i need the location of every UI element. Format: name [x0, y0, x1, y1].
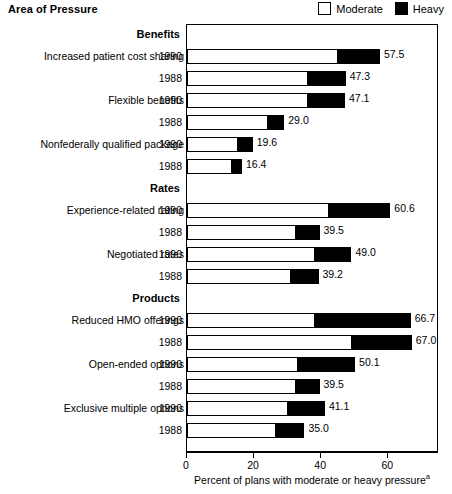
chart-legend: ModerateHeavy: [318, 2, 444, 15]
x-axis-tick-label: 40: [314, 459, 326, 471]
stacked-bar: [187, 115, 284, 130]
x-axis-tick: [387, 452, 388, 458]
stacked-bar: [187, 71, 346, 86]
section-title: Rates: [0, 182, 180, 195]
section-header-row: Products: [0, 288, 452, 310]
x-axis-label: Percent of plans with moderate or heavy …: [186, 472, 438, 486]
year-label: 1990: [152, 314, 182, 327]
legend-swatch-moderate-icon: [318, 2, 331, 15]
bar-segment-heavy: [314, 314, 409, 327]
bar-segment-heavy: [314, 248, 350, 261]
x-axis-label-text: Percent of plans with moderate or heavy …: [194, 474, 426, 486]
table-row: Exclusive multiple options199041.1: [0, 398, 452, 420]
bar-segment-heavy: [295, 226, 318, 239]
bar-segment-heavy: [275, 424, 303, 437]
bar-value-label: 35.0: [308, 422, 328, 434]
year-label: 1990: [152, 358, 182, 371]
bar-segment-moderate: [188, 94, 307, 107]
stacked-bar: [187, 93, 345, 108]
bar-segment-moderate: [188, 50, 337, 63]
x-axis-tick-label: 60: [381, 459, 393, 471]
legend-label: Heavy: [413, 3, 444, 15]
bar-segment-heavy: [328, 204, 390, 217]
year-label: 1990: [152, 138, 182, 151]
bar-value-label: 49.0: [355, 246, 375, 258]
bar-segment-moderate: [188, 160, 231, 173]
x-axis-label-footnote: a: [426, 472, 430, 481]
year-label: 1990: [152, 50, 182, 63]
stacked-bar: [187, 423, 304, 438]
bar-segment-heavy: [231, 160, 241, 173]
legend-item-moderate: Moderate: [318, 2, 382, 15]
section-title: Benefits: [0, 28, 180, 41]
year-label: 1988: [152, 336, 182, 349]
bar-segment-heavy: [297, 358, 354, 371]
table-row: 198839.5: [0, 376, 452, 398]
year-label: 1988: [152, 72, 182, 85]
x-axis-tick-label: 0: [183, 459, 189, 471]
chart-container: Area of Pressure ModerateHeavy BenefitsI…: [0, 0, 452, 494]
bar-segment-moderate: [188, 270, 290, 283]
bar-segment-heavy: [351, 336, 411, 349]
bar-value-label: 16.4: [246, 158, 266, 170]
table-row: 198816.4: [0, 156, 452, 178]
section-header-row: Benefits: [0, 24, 452, 46]
x-axis-tick: [186, 452, 187, 458]
bar-value-label: 47.1: [349, 92, 369, 104]
table-row: Experience-related rating199060.6: [0, 200, 452, 222]
bar-segment-moderate: [188, 72, 307, 85]
stacked-bar: [187, 335, 412, 350]
bar-value-label: 66.7: [415, 312, 435, 324]
stacked-bar: [187, 159, 242, 174]
bar-segment-moderate: [188, 336, 351, 349]
table-row: 198829.0: [0, 112, 452, 134]
bar-value-label: 57.5: [384, 48, 404, 60]
stacked-bar: [187, 269, 319, 284]
bar-value-label: 19.6: [257, 136, 277, 148]
legend-label: Moderate: [336, 3, 382, 15]
table-row: Reduced HMO offerings199066.7: [0, 310, 452, 332]
year-label: 1988: [152, 116, 182, 129]
bar-segment-moderate: [188, 226, 295, 239]
x-axis-tick-label: 20: [247, 459, 259, 471]
stacked-bar: [187, 401, 325, 416]
table-row: 198847.3: [0, 68, 452, 90]
year-label: 1990: [152, 248, 182, 261]
stacked-bar: [187, 357, 355, 372]
bar-value-label: 39.5: [324, 378, 344, 390]
table-row: 198835.0: [0, 420, 452, 442]
bar-segment-moderate: [188, 116, 267, 129]
bar-value-label: 67.0: [416, 334, 436, 346]
bar-value-label: 50.1: [359, 356, 379, 368]
bar-value-label: 47.3: [350, 70, 370, 82]
year-label: 1988: [152, 160, 182, 173]
table-row: 198839.2: [0, 266, 452, 288]
bar-segment-heavy: [290, 270, 317, 283]
bar-segment-moderate: [188, 204, 328, 217]
bar-segment-heavy: [307, 94, 344, 107]
bar-segment-moderate: [188, 358, 297, 371]
x-axis-tick: [320, 452, 321, 458]
bar-segment-heavy: [295, 380, 318, 393]
bar-segment-moderate: [188, 424, 275, 437]
bar-segment-moderate: [188, 314, 314, 327]
year-label: 1990: [152, 94, 182, 107]
stacked-bar: [187, 49, 380, 64]
table-row: 198867.0: [0, 332, 452, 354]
bar-segment-heavy: [287, 402, 324, 415]
table-row: Increased patient cost sharing199057.5: [0, 46, 452, 68]
stacked-bar: [187, 137, 253, 152]
stacked-bar: [187, 225, 320, 240]
year-label: 1990: [152, 402, 182, 415]
bar-value-label: 39.2: [323, 268, 343, 280]
x-axis-line: [186, 452, 438, 453]
x-axis: 0204060: [186, 452, 438, 453]
bar-segment-heavy: [337, 50, 379, 63]
bar-segment-moderate: [188, 248, 314, 261]
year-label: 1988: [152, 226, 182, 239]
bar-rows: BenefitsIncreased patient cost sharing19…: [0, 24, 452, 452]
bar-value-label: 29.0: [288, 114, 308, 126]
bar-value-label: 39.5: [324, 224, 344, 236]
year-label: 1988: [152, 270, 182, 283]
year-label: 1990: [152, 204, 182, 217]
